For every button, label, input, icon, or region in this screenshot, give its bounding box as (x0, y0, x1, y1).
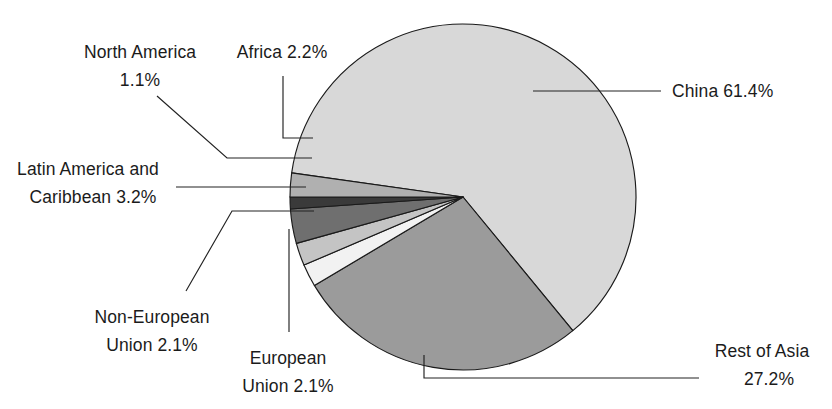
pie-chart-canvas: China 61.4% Rest of Asia 27.2% European … (0, 0, 832, 409)
label-china: China 61.4% (672, 81, 773, 101)
label-rest-of-asia-line2: 27.2% (744, 369, 794, 389)
label-latin-america-line2: Caribbean 3.2% (30, 187, 157, 207)
pie-chart-figure: China 61.4% Rest of Asia 27.2% European … (0, 0, 832, 409)
label-north-america-line1: North America (84, 42, 196, 62)
label-european-union-line2: Union 2.1% (242, 376, 333, 396)
leader-line-north-america (157, 96, 312, 158)
pie-slices-group (290, 24, 636, 370)
label-north-america-line2: 1.1% (120, 70, 160, 90)
label-european-union-line1: European (250, 348, 327, 368)
label-latin-america-line1: Latin America and (17, 159, 159, 179)
label-rest-of-asia-line1: Rest of Asia (715, 341, 810, 361)
label-non-european-line1: Non-European (94, 307, 209, 327)
label-non-european-line2: Union 2.1% (106, 335, 197, 355)
label-africa: Africa 2.2% (237, 42, 328, 62)
